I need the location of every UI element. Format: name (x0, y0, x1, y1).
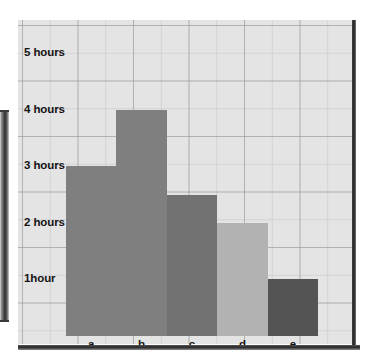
y-axis-label-3: 3 hours (24, 159, 86, 171)
page-edge-cap-bottom (0, 320, 9, 322)
frame-bottom-border (18, 345, 360, 350)
bar-e (268, 279, 318, 336)
page-edge-strip (0, 110, 9, 322)
bar-b (116, 110, 166, 336)
bar-d (217, 223, 267, 336)
y-axis-label-2: 2 hours (24, 216, 86, 228)
y-axis-label-4: 4 hours (24, 103, 86, 115)
page-edge-cap-top (0, 110, 9, 112)
bar-c (167, 195, 217, 336)
bar-chart-figure: 5 hours 4 hours 3 hours 2 hours 1hour a … (18, 20, 360, 350)
frame-right-border (352, 20, 356, 348)
y-axis-label-5: 5 hours (24, 46, 86, 58)
chart-plot-frame: 5 hours 4 hours 3 hours 2 hours 1hour a … (18, 20, 356, 344)
y-axis-label-1: 1hour (24, 272, 86, 284)
bar-a (66, 166, 116, 336)
chart-plot-area (66, 25, 318, 336)
